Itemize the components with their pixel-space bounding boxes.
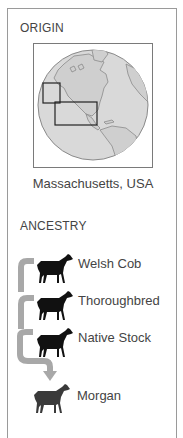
breed-info-panel: ORIGIN (7, 8, 177, 438)
horse-silhouette-icon (35, 253, 75, 287)
ancestry-item-morgan: Morgan (8, 383, 178, 417)
ancestry-label: Welsh Cob (78, 256, 141, 271)
horse-silhouette-icon (32, 383, 72, 417)
ancestry-item-welsh-cob: Welsh Cob (8, 253, 178, 287)
ancestry-item-native-stock: Native Stock (8, 327, 178, 361)
ancestry-label: Native Stock (78, 330, 151, 345)
ancestry-label: Morgan (77, 388, 121, 403)
horse-silhouette-icon (35, 290, 75, 324)
ancestry-label: Thoroughbred (78, 293, 160, 308)
lineage-arrows-icon (8, 9, 68, 429)
ancestry-item-thoroughbred: Thoroughbred (8, 290, 178, 324)
horse-silhouette-icon (35, 327, 75, 361)
